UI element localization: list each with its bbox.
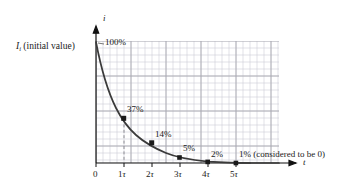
x-tick-5tau-unit: τ xyxy=(235,169,238,179)
annotation-14-percent: 14% xyxy=(155,130,172,139)
x-tick-2tau: 2τ xyxy=(146,170,154,179)
x-tick-0-value: 0 xyxy=(93,169,98,179)
x-tick-2tau-unit: τ xyxy=(151,169,154,179)
x-axis-arrowhead xyxy=(289,160,296,165)
annotation-37-percent: 37% xyxy=(127,105,144,114)
annotation-100-percent: 100% xyxy=(105,38,126,47)
marker-4tau xyxy=(205,160,210,165)
x-tick-5tau: 5τ xyxy=(230,170,238,179)
annotation-1-percent: 1% (considered to be 0) xyxy=(239,150,325,159)
annotation-5-percent: 5% xyxy=(183,144,195,153)
marker-3tau xyxy=(177,155,182,160)
annotation-2-percent: 2% xyxy=(211,150,223,159)
initial-value-text: (initial value) xyxy=(21,41,75,51)
x-tick-1tau-unit: τ xyxy=(123,169,126,179)
marker-1tau xyxy=(121,116,126,121)
y-axis-arrowhead xyxy=(93,26,98,33)
x-axis-ticks xyxy=(96,163,236,167)
initial-value-label: Ii (initial value) xyxy=(16,42,75,53)
x-tick-0: 0 xyxy=(93,170,98,179)
x-tick-3tau-unit: τ xyxy=(179,169,182,179)
y-axis-label: i xyxy=(103,14,106,23)
x-tick-3tau: 3τ xyxy=(174,170,182,179)
x-axis-label: t xyxy=(303,158,306,167)
x-tick-4tau: 4τ xyxy=(202,170,210,179)
figure-canvas: i t Ii (initial value) 100% 37% 14% 5% 2… xyxy=(0,0,356,189)
x-tick-1tau: 1τ xyxy=(118,170,126,179)
marker-5tau xyxy=(234,161,239,166)
marker-2tau xyxy=(149,140,154,145)
x-tick-4tau-unit: τ xyxy=(207,169,210,179)
